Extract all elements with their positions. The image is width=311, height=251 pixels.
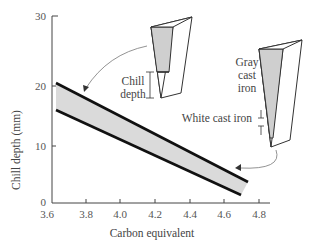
x-tick-4.4: 4.4 xyxy=(183,208,197,220)
y-axis-label: Chill depth (mm) xyxy=(10,110,23,190)
x-tick-3.8: 3.8 xyxy=(79,208,93,220)
chill-label-line2: depth xyxy=(120,88,146,101)
gray-label-line1: Gray xyxy=(236,56,259,69)
y-ticks xyxy=(52,16,58,146)
x-axis-label: Carbon equivalent xyxy=(110,227,195,240)
arrow-to-band-icon xyxy=(240,150,277,168)
y-tick-10: 10 xyxy=(35,140,47,152)
x-tick-4.6: 4.6 xyxy=(217,208,231,220)
gray-label-line2: cast xyxy=(238,69,257,81)
chill-depth-dimension-icon xyxy=(146,72,154,98)
arrowhead-icon xyxy=(83,85,89,92)
chill-depth-chart: 30 20 10 0 3.6 3.8 4.0 4.2 4.4 4.6 4.8 C… xyxy=(0,0,311,251)
chill-label-line1: Chill xyxy=(121,75,144,87)
y-tick-30: 30 xyxy=(35,10,47,22)
y-tick-20: 20 xyxy=(35,80,47,92)
x-tick-4.0: 4.0 xyxy=(113,208,127,220)
x-ticks xyxy=(86,199,259,203)
arrowhead-2-icon xyxy=(235,164,241,171)
x-tick-4.2: 4.2 xyxy=(148,208,162,220)
wedge-gray-white-icon xyxy=(259,40,302,147)
wedge-chill-depth-icon xyxy=(151,17,192,98)
gray-label-line3: iron xyxy=(238,82,257,94)
chill-band xyxy=(56,83,248,195)
x-tick-4.8: 4.8 xyxy=(252,208,266,220)
white-iron-dimension-icon xyxy=(258,110,264,135)
white-cast-iron-label: White cast iron xyxy=(182,112,253,124)
y-tick-0: 0 xyxy=(41,196,47,208)
x-tick-3.6: 3.6 xyxy=(40,208,54,220)
